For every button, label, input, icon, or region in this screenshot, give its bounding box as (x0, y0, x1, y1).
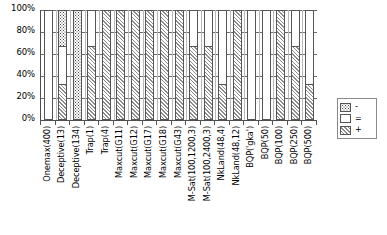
bar-segment-= (291, 10, 300, 46)
stacked-bar[interactable] (305, 10, 314, 120)
stacked-bar[interactable] (131, 10, 140, 120)
bar-segment-+ (276, 10, 285, 120)
x-tick (214, 120, 215, 125)
stacked-bar[interactable] (73, 10, 82, 120)
bar-segment-= (305, 10, 314, 84)
y-tick-label: 20% (16, 92, 35, 101)
bar-segment-+ (218, 84, 227, 120)
bar-segment-+ (131, 10, 140, 120)
stacked-bar[interactable] (44, 10, 53, 120)
stacked-bar[interactable] (102, 10, 111, 120)
stacked-bar[interactable] (262, 10, 271, 120)
x-axis-label: Deceptive(13) (57, 126, 65, 183)
y-tick-label: 100% (11, 4, 35, 13)
x-tick (55, 120, 56, 125)
x-axis-ticks (40, 120, 316, 125)
x-tick (185, 120, 186, 125)
legend-entry: + (340, 125, 374, 136)
bar-segment-+ (102, 10, 111, 120)
bar-slot (230, 10, 245, 120)
bar-slot (244, 10, 259, 120)
x-tick (171, 120, 172, 125)
x-tick (69, 120, 70, 125)
x-tick (243, 120, 244, 125)
bar-segment-+ (233, 10, 242, 120)
bar-slot (99, 10, 114, 120)
x-tick (272, 120, 273, 125)
stacked-bar[interactable] (87, 10, 96, 120)
x-tick (142, 120, 143, 125)
bar-slot (56, 10, 71, 120)
bar-slot (288, 10, 303, 120)
y-axis: 0%20%40%60%80%100% (0, 8, 38, 120)
bar-segment-+ (145, 10, 154, 120)
bar-segment-- (58, 10, 67, 46)
stacked-bar[interactable] (189, 10, 198, 120)
x-tick (301, 120, 302, 125)
legend-swatch-diagonal (340, 126, 351, 135)
y-tick-label: 60% (16, 48, 35, 57)
x-tick (113, 120, 114, 125)
x-axis-label: Trap(1) (86, 126, 94, 154)
stacked-bar[interactable] (276, 10, 285, 120)
x-tick (258, 120, 259, 125)
x-tick (84, 120, 85, 125)
x-tick (156, 120, 157, 125)
bar-slot (70, 10, 85, 120)
x-tick (127, 120, 128, 125)
percentage-stacked-bar-chart: 0%20%40%60%80%100% Onemax(400)Deceptive(… (0, 0, 387, 235)
bar-segment-+ (204, 46, 213, 120)
bar-segment-+ (87, 46, 96, 120)
x-axis-label: Maxcut(G18) (159, 126, 167, 178)
y-tick-label: 40% (16, 70, 35, 79)
bar-slot (128, 10, 143, 120)
bar-slot (114, 10, 129, 120)
bar-segment-= (262, 10, 271, 120)
bar-slot (85, 10, 100, 120)
x-tick (200, 120, 201, 125)
stacked-bar[interactable] (58, 10, 67, 120)
y-tick-label: 80% (16, 26, 35, 35)
stacked-bar[interactable] (175, 10, 184, 120)
plot-area (40, 10, 317, 121)
bar-segment-- (73, 10, 82, 120)
x-axis-label: BQP('gka') (246, 126, 254, 168)
bar-segment-+ (175, 10, 184, 120)
stacked-bar[interactable] (145, 10, 154, 120)
bar-segment-= (58, 46, 67, 83)
x-axis-label: BQP(50) (261, 126, 269, 159)
legend-label: - (355, 103, 358, 111)
bar-segment-= (218, 10, 227, 84)
legend-swatch-blank (340, 114, 351, 123)
x-axis-label: BQP(500) (304, 126, 312, 164)
stacked-bar[interactable] (116, 10, 125, 120)
y-tick-label: 0% (22, 114, 35, 123)
stacked-bar[interactable] (233, 10, 242, 120)
bar-segment-= (87, 10, 96, 46)
x-tick (229, 120, 230, 125)
bar-segment-+ (160, 10, 169, 120)
bar-series-group (41, 10, 317, 120)
x-tick (98, 120, 99, 125)
x-axis-label: M-Sat(100,2400,3) (203, 126, 211, 201)
bar-segment-+ (291, 46, 300, 120)
legend-label: + (355, 126, 362, 134)
legend-swatch-dotted (340, 103, 351, 112)
x-axis-label: M-Sat(100,1200,3) (188, 126, 196, 201)
stacked-bar[interactable] (291, 10, 300, 120)
stacked-bar[interactable] (160, 10, 169, 120)
chart-legend: -=+ (337, 98, 377, 139)
stacked-bar[interactable] (204, 10, 213, 120)
bar-slot (215, 10, 230, 120)
stacked-bar[interactable] (218, 10, 227, 120)
bar-segment-= (189, 10, 198, 46)
x-axis-label: BQP(100) (275, 126, 283, 164)
x-axis-label: Trap(4) (101, 126, 109, 154)
x-axis-label: Onemax(400) (43, 126, 51, 182)
bar-slot (41, 10, 56, 120)
bar-segment-+ (58, 84, 67, 120)
bar-segment-= (247, 10, 256, 120)
x-axis-label: Maxcut(G17) (144, 126, 152, 178)
x-axis-label: NkLand(48,4) (217, 126, 225, 180)
stacked-bar[interactable] (247, 10, 256, 120)
